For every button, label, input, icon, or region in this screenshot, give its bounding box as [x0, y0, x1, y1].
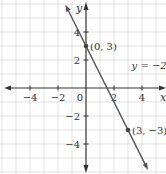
- x-tick-label: −4: [23, 92, 38, 103]
- data-point-label: (0, 3): [90, 41, 117, 52]
- y-tick-label: −4: [65, 139, 80, 150]
- annotations: y = −2x + 3: [131, 60, 166, 71]
- chart: y x −4−2024−4−224 (0, 3)(3, −3) y = −2x …: [0, 0, 166, 174]
- x-tick-label: 4: [139, 92, 145, 103]
- data-point: [126, 128, 131, 133]
- y-tick-label: 2: [74, 55, 80, 66]
- y-axis-label: y: [75, 2, 83, 15]
- x-axis-label: x: [160, 91, 166, 104]
- y-axis-top-arrow: [84, 2, 89, 10]
- x-tick-label: −2: [51, 92, 66, 103]
- series-arrow-end: [143, 163, 148, 170]
- grid: [0, 0, 166, 174]
- series-arrow-start: [65, 5, 70, 12]
- equation-label: y = −2x + 3: [131, 60, 166, 71]
- data-point: [84, 44, 89, 49]
- data-point-label: (3, −3): [132, 125, 166, 136]
- y-tick-label: −2: [65, 111, 80, 122]
- x-tick-label: 0: [77, 92, 83, 103]
- x-axis-left-arrow: [4, 86, 11, 91]
- x-axis-right-arrow: [159, 86, 166, 91]
